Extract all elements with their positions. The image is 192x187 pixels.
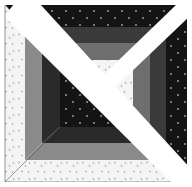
right-margin <box>187 0 192 187</box>
top-margin <box>0 0 192 5</box>
bottom-margin <box>0 182 192 187</box>
quilt-block <box>0 0 192 187</box>
